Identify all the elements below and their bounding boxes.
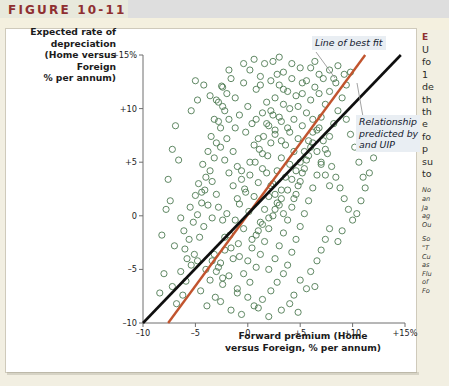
y-tick-label: –10: [103, 318, 137, 328]
side-body-text: Ufo1deththefopsuto: [420, 44, 449, 180]
side-body-line: th: [422, 106, 449, 118]
side-source-line: Flu: [422, 270, 449, 279]
side-body-line: th: [422, 94, 449, 106]
x-axis-title-line-2: versus Foreign, % per annum): [225, 342, 381, 353]
side-source-text: So"TCuasFluofFo: [422, 235, 449, 295]
x-tick-label: 0: [228, 328, 268, 338]
side-source-line: "T: [422, 244, 449, 253]
side-source-line: Fo: [422, 287, 449, 296]
y-tick-label: 0: [103, 211, 137, 221]
x-tick-label: –5: [175, 328, 215, 338]
y-axis-title-line-2: depreciation: [51, 38, 116, 49]
side-note-line: Ja: [422, 204, 449, 213]
side-note-line: an: [422, 195, 449, 204]
side-body-line: e: [422, 118, 449, 130]
side-note-text: NoanJaagOu: [422, 186, 449, 229]
y-tick-label: +10: [103, 104, 137, 114]
y-axis-title-line-1: Expected rate of: [30, 26, 116, 37]
y-axis-title-line-5: % per annum): [43, 72, 116, 83]
side-body-line: fo: [422, 131, 449, 143]
side-source-line: So: [422, 235, 449, 244]
side-source-line: of: [422, 278, 449, 287]
x-tick-label: +5: [280, 328, 320, 338]
side-source-line: Cu: [422, 253, 449, 262]
x-tick-label: –10: [123, 328, 163, 338]
side-body-line: 1: [422, 69, 449, 81]
side-heading: E: [422, 32, 449, 42]
side-text-column: E Ufo1deththefopsuto NoanJaagOu So"TCuas…: [420, 30, 449, 370]
side-note-line: ag: [422, 212, 449, 221]
annotation-line-of-best-fit: Line of best fit: [312, 36, 386, 50]
figure-label: FIGURE 10-11: [8, 3, 127, 17]
y-tick-label: +15%: [103, 50, 137, 60]
side-note-line: Ou: [422, 221, 449, 230]
y-tick-label: +5: [103, 157, 137, 167]
side-body-line: p: [422, 143, 449, 155]
side-source-line: as: [422, 261, 449, 270]
side-note-line: No: [422, 186, 449, 195]
y-axis-title-line-4: Foreign: [77, 61, 116, 72]
header-gray-band: [128, 0, 449, 18]
x-tick-label: +15%: [385, 328, 425, 338]
side-body-line: de: [422, 81, 449, 93]
side-body-line: su: [422, 156, 449, 168]
x-tick-label: +10: [333, 328, 373, 338]
side-body-line: U: [422, 44, 449, 56]
side-body-line: fo: [422, 56, 449, 68]
y-tick-label: –5: [103, 264, 137, 274]
side-body-line: to: [422, 168, 449, 180]
y-axis-title: Expected rate of depreciation (Home vers…: [18, 26, 116, 84]
